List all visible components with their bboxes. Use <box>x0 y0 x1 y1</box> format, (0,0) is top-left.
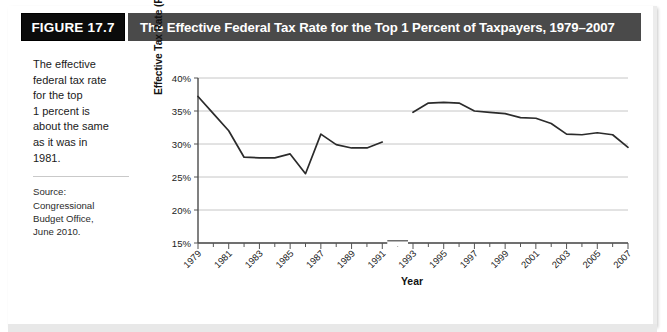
x-tick-label: 1987 <box>304 248 327 271</box>
x-tick-label: 1999 <box>488 248 511 271</box>
x-tick-label: 1983 <box>242 248 265 271</box>
x-tick-label: 1995 <box>427 248 450 271</box>
x-tick-label: 2001 <box>519 248 542 271</box>
y-tick-label: 30% <box>172 139 192 150</box>
data-line-segment-2 <box>413 102 628 147</box>
x-tick-label: 1989 <box>334 248 357 271</box>
caption-divider <box>33 176 129 177</box>
caption-body: The effective federal tax rate for the t… <box>33 57 141 166</box>
figure-number-badge: FIGURE 17.7 <box>21 13 125 41</box>
x-axis-title: Year <box>352 276 472 287</box>
y-tick-label: 35% <box>172 106 192 117</box>
x-tick-label: 2005 <box>580 248 603 271</box>
y-tick-label: 25% <box>172 172 192 183</box>
y-tick-label: 20% <box>172 205 192 216</box>
x-tick-label: 1991 <box>365 248 388 271</box>
x-tick-label: 1985 <box>273 248 296 271</box>
caption-source: Source: Congressional Budget Office, Jun… <box>33 185 141 239</box>
caption-column: The effective federal tax rate for the t… <box>33 57 141 272</box>
x-tick-label: 1997 <box>457 248 480 271</box>
x-tick-label: 1981 <box>212 248 235 271</box>
x-tick-label: 2007 <box>611 248 634 271</box>
y-axis-title: Effective Tax Rate (Percent) <box>153 0 164 95</box>
y-tick-label: 40% <box>172 73 192 84</box>
data-line-segment-1 <box>198 96 382 173</box>
x-tick-label: 1979 <box>181 248 204 271</box>
y-tick-label: 15% <box>172 238 192 249</box>
x-tick-label: 1993 <box>396 248 419 271</box>
page-bottom-edge <box>8 324 657 332</box>
figure-header: FIGURE 17.7 The Effective Federal Tax Ra… <box>21 13 641 41</box>
figure-screenshot: FIGURE 17.7 The Effective Federal Tax Ra… <box>0 0 667 332</box>
figure-title: The Effective Federal Tax Rate for the T… <box>128 13 641 41</box>
x-tick-label: 2003 <box>549 248 572 271</box>
